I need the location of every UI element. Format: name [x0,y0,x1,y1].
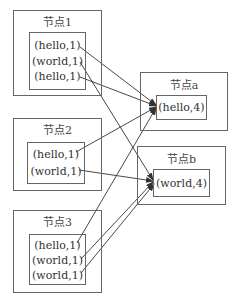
source-node-2: 节点2 (hello,1) (world,1) [13,118,102,191]
record: (world,1) [30,55,85,68]
source-node-1: 节点1 (hello,1) (world,1) (hello,1) [13,10,102,96]
record: (world,1) [30,269,85,282]
target-node-a: 节点a (hello,4) [140,72,228,131]
node-record-box: (hello,1) (world,1) (world,1) [29,234,86,285]
node-title: 节点3 [14,217,101,229]
record: (world,1) [30,254,85,267]
record: (hello,4) [157,101,206,114]
node-title: 节点2 [14,125,101,137]
node-record-box: (world,4) [153,169,210,197]
diagram-canvas: 节点1 (hello,1) (world,1) (hello,1) 节点2 (h… [0,0,234,303]
node-title: 节点b [138,154,225,166]
node-record-box: (hello,1) (world,1) [27,142,85,184]
node-title: 节点a [141,80,227,92]
record: (world,1) [28,165,84,178]
record: (hello,1) [28,148,84,161]
record: (hello,1) [30,239,85,252]
node-record-box: (hello,1) (world,1) (hello,1) [29,32,86,90]
node-title: 节点1 [14,17,101,29]
record: (hello,1) [30,39,85,52]
source-node-3: 节点3 (hello,1) (world,1) (world,1) [13,210,102,293]
target-node-b: 节点b (world,4) [137,146,226,205]
record: (world,4) [154,177,209,190]
record: (hello,1) [30,70,85,83]
node-record-box: (hello,4) [156,95,207,120]
